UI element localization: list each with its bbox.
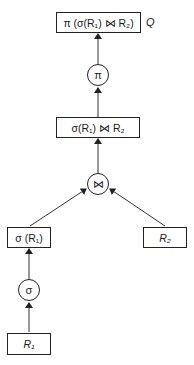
select-operator-node: σ: [18, 279, 40, 301]
select-label: σ: [26, 284, 33, 296]
join-result-box: σ(R₁) ⋈ R₂: [56, 117, 140, 138]
join-result-label: σ(R₁) ⋈ R₂: [71, 122, 124, 134]
project-label: π: [94, 69, 102, 81]
select-result-label: σ (R₁): [15, 232, 43, 244]
edge-r2-to-join: [110, 189, 165, 226]
r2-box: R₂: [143, 227, 187, 248]
r1-box: R₁: [7, 333, 51, 355]
join-operator-node: ⋈: [87, 173, 109, 195]
r1-label: R₁: [24, 338, 35, 350]
query-tag: Q: [146, 16, 155, 28]
join-label: ⋈: [93, 178, 104, 191]
project-operator-node: π: [87, 64, 109, 86]
result-label: π (σ(R₁) ⋈ R₂): [63, 17, 133, 29]
result-box: π (σ(R₁) ⋈ R₂): [56, 12, 141, 33]
select-result-box: σ (R₁): [7, 227, 51, 248]
r2-label: R₂: [159, 232, 171, 244]
edge-select-result-to-join: [30, 189, 86, 226]
